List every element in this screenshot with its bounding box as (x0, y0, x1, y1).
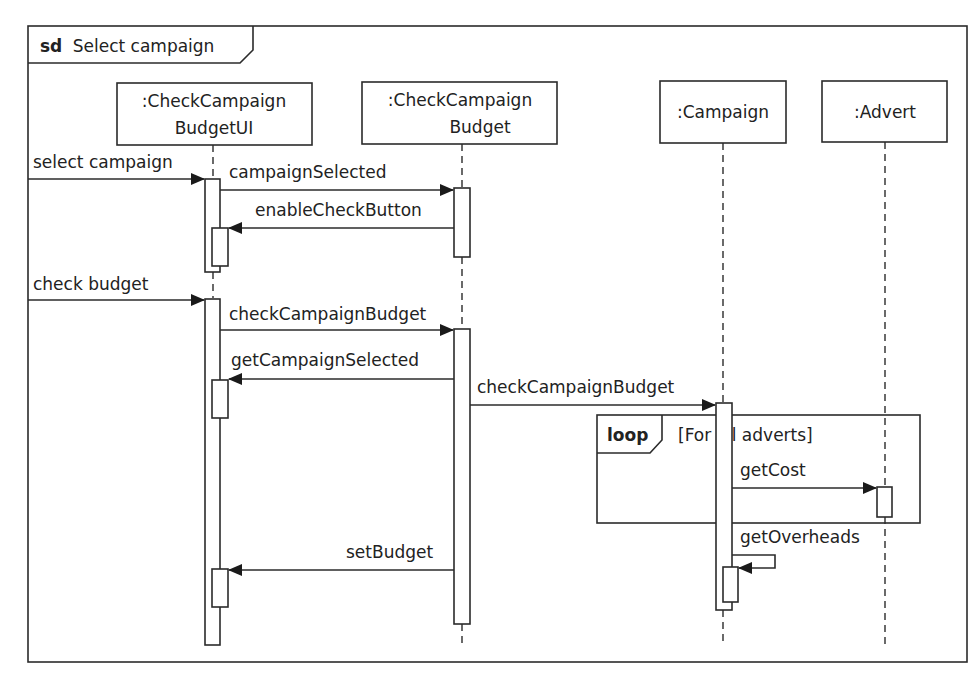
loop-operator-label: loop (607, 425, 648, 445)
lifeline-ccb-label-2: Budget (449, 117, 510, 137)
sequence-diagram: sd Select campaign :CheckCampaign Budget… (0, 0, 979, 688)
loop-guard: [For all adverts] (678, 425, 813, 445)
lifeline-ui-label-1: :CheckCampaign (142, 91, 286, 111)
frame-name: Select campaign (73, 36, 215, 56)
lifeline-campaign-label: :Campaign (677, 102, 769, 122)
message-label-set-budget: setBudget (346, 542, 433, 562)
activation-ui-2-nested-a (212, 380, 228, 418)
messages: select campaign campaignSelected enableC… (28, 152, 876, 570)
message-label-check-campaign-budget-1: checkCampaignBudget (229, 304, 427, 324)
message-label-campaign-selected: campaignSelected (229, 162, 387, 182)
message-label-select-campaign: select campaign (33, 152, 173, 172)
activation-ui-2-nested-b (212, 569, 228, 607)
activation-ccb-2 (454, 329, 470, 624)
message-label-get-campaign-selected: getCampaignSelected (231, 350, 419, 370)
message-label-get-overheads: getOverheads (740, 527, 860, 547)
message-label-check-budget: check budget (33, 274, 149, 294)
activation-bars (205, 179, 892, 645)
activation-ui-1-nested (212, 228, 228, 266)
activation-advert (877, 487, 892, 517)
message-label-enable-check-button: enableCheckButton (255, 200, 422, 220)
lifeline-ui-label-2: BudgetUI (175, 118, 254, 138)
lifeline-ccb-label-1: :CheckCampaign (388, 90, 532, 110)
lifeline-advert: :Advert (822, 81, 947, 645)
message-label-check-campaign-budget-2: checkCampaignBudget (477, 377, 675, 397)
lifeline-advert-label: :Advert (854, 102, 916, 122)
activation-campaign-nested (723, 567, 738, 602)
message-label-get-cost: getCost (740, 460, 806, 480)
frame-keyword: sd (40, 36, 62, 56)
activation-ccb-1 (454, 188, 470, 257)
frame-title: sd Select campaign (40, 36, 214, 56)
message-arrow-get-overheads (732, 555, 775, 568)
